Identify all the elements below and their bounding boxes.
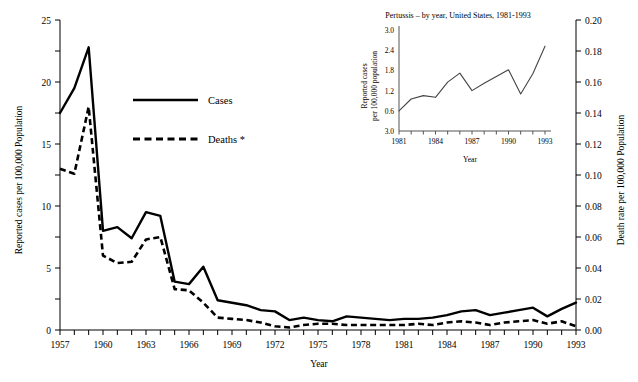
main-y-tick-label-right: 0.14 xyxy=(585,109,602,119)
inset-x-axis-title: Year xyxy=(463,155,477,164)
pertussis-chart-svg: 1957196019631966196919721975197819811984… xyxy=(0,0,638,382)
main-y-tick-label-right: 0.00 xyxy=(585,326,602,336)
chart-figure: 1957196019631966196919721975197819811984… xyxy=(0,0,638,382)
main-y-axis-title-right: Death rate per 100,000 Population xyxy=(616,114,626,245)
inset-y-tick-label: 0.6 xyxy=(385,107,395,116)
main-y-tick-label-right: 0.10 xyxy=(585,171,602,181)
main-y-tick-label-left: 0 xyxy=(46,326,51,336)
main-x-axis-title: Year xyxy=(310,359,328,369)
main-x-tick-label: 1987 xyxy=(481,340,500,350)
inset-x-tick-label: 1990 xyxy=(501,137,516,146)
main-y-tick-label-left: 15 xyxy=(42,140,52,150)
main-x-tick-label: 1960 xyxy=(94,340,113,350)
main-y-tick-label-left: 10 xyxy=(42,202,52,212)
legend-label-deaths: Deaths * xyxy=(208,134,245,145)
inset-x-tick-label: 1993 xyxy=(538,137,553,146)
inset-y-tick-label: 2.4 xyxy=(385,46,395,55)
main-y-tick-label-right: 0.16 xyxy=(585,78,602,88)
main-x-tick-label: 1975 xyxy=(309,340,328,350)
main-y-tick-label-right: 0.02 xyxy=(585,295,602,305)
main-x-tick-label: 1957 xyxy=(51,340,70,350)
inset-title: Pertussis – by year, United States, 1981… xyxy=(385,11,530,20)
main-y-axis-title-left: Reported cases per 100,000 Population xyxy=(14,105,24,254)
main-x-tick-label: 1972 xyxy=(266,340,285,350)
main-y-tick-label-right: 0.12 xyxy=(585,140,602,150)
main-y-tick-label-left: 5 xyxy=(46,264,51,274)
main-x-tick-label: 1966 xyxy=(180,340,199,350)
main-x-tick-label: 1990 xyxy=(524,340,543,350)
inset-y-tick-label: 1.2 xyxy=(385,87,395,96)
main-x-tick-label: 1978 xyxy=(352,340,371,350)
main-y-tick-label-right: 0.04 xyxy=(585,264,602,274)
legend-label-cases: Cases xyxy=(208,95,233,106)
main-x-tick-label: 1969 xyxy=(223,340,242,350)
main-y-tick-label-right: 0.06 xyxy=(585,233,602,243)
main-y-tick-label-right: 0.20 xyxy=(585,16,602,26)
main-y-tick-label-right: 0.08 xyxy=(585,202,602,212)
main-x-tick-label: 1993 xyxy=(567,340,586,350)
inset-x-tick-label: 1987 xyxy=(465,137,480,146)
main-x-tick-label: 1984 xyxy=(438,340,457,350)
inset-y-tick-label: 1.8 xyxy=(385,66,395,75)
main-x-tick-label: 1981 xyxy=(395,340,414,350)
inset-x-tick-label: 1981 xyxy=(392,137,407,146)
inset-y-axis-title-line1: Reported cases xyxy=(360,63,369,108)
inset-y-tick-label: 3.0 xyxy=(385,127,395,136)
inset-x-tick-label: 1984 xyxy=(428,137,443,146)
inset-y-tick-label: 3.0 xyxy=(385,26,395,35)
main-y-tick-label-left: 20 xyxy=(42,78,52,88)
main-y-tick-label-right: 0.18 xyxy=(585,47,602,57)
main-y-tick-label-left: 25 xyxy=(42,16,52,26)
inset-y-axis-title-line2: per 100,000 population xyxy=(370,51,379,121)
main-x-tick-label: 1963 xyxy=(137,340,156,350)
